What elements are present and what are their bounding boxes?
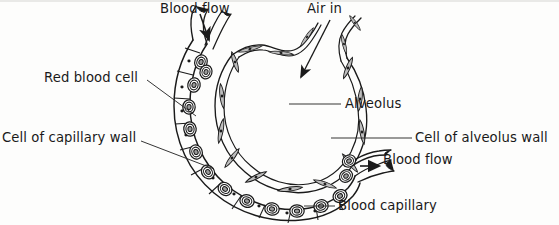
label-blood-flow-in: Blood flow [160, 2, 230, 15]
capillary-wall-cell-nuclei [180, 60, 340, 215]
label-air-in: Air in [307, 2, 342, 15]
label-alveolus: Alveolus [345, 97, 401, 110]
label-cell-of-alveolus-wall: Cell of alveolus wall [415, 131, 548, 144]
capillary-wall-cell-boundaries [174, 48, 343, 223]
alveolus-wall-outer-line [224, 57, 359, 185]
label-blood-capillary: Blood capillary [338, 199, 437, 212]
label-red-blood-cell: Red blood cell [44, 71, 138, 84]
alveolus-capillary-diagram [0, 0, 559, 225]
label-cell-of-capillary-wall: Cell of capillary wall [2, 131, 136, 144]
capillary-inlet [191, 6, 231, 80]
label-blood-flow-out: Blood flow [383, 153, 453, 166]
